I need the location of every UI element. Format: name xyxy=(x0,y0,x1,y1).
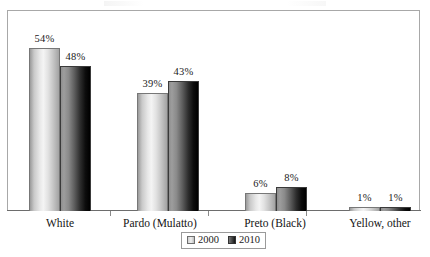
category-label-yellow-other: Yellow, other xyxy=(333,216,427,230)
legend-item-2000[interactable]: 2000 xyxy=(187,234,219,246)
scan-artifact xyxy=(104,1,326,6)
bar-value-label: 43% xyxy=(161,66,207,78)
bar-rect xyxy=(137,93,168,211)
bar-white-2010: 48% xyxy=(60,11,91,211)
bar-rect xyxy=(380,207,411,211)
bar-value-label: 8% xyxy=(269,172,315,184)
bar-group-yellow-other: 1% 1% xyxy=(348,11,412,211)
bar-rect xyxy=(245,193,276,211)
bar-rect xyxy=(29,48,60,211)
legend-swatch-2000-icon xyxy=(187,236,195,244)
bar-group-preto: 6% 8% xyxy=(244,11,308,211)
bar-rect xyxy=(349,207,380,211)
bar-rect xyxy=(168,81,199,211)
chart-legend: 2000 2010 xyxy=(181,232,266,249)
bar-yellow-other-2010: 1% xyxy=(380,11,411,211)
category-label-preto: Preto (Black) xyxy=(228,216,322,230)
axis-tick xyxy=(110,211,111,216)
bar-group-pardo: 39% 43% xyxy=(136,11,200,211)
bar-white-2000: 54% xyxy=(29,11,60,211)
bar-value-label: 48% xyxy=(53,51,99,63)
bar-pardo-2010: 43% xyxy=(168,11,199,211)
bar-group-white: 54% 48% xyxy=(28,11,92,211)
bar-yellow-other-2000: 1% xyxy=(349,11,380,211)
legend-label-2000: 2000 xyxy=(198,234,219,246)
legend-swatch-2010-icon xyxy=(228,236,236,244)
category-label-white: White xyxy=(20,216,100,230)
axis-tick xyxy=(208,211,209,216)
bar-rect xyxy=(60,66,91,211)
grouped-bar-chart: 54% 48% 39% 43% 6% xyxy=(0,0,430,257)
category-label-pardo: Pardo (Mulatto) xyxy=(113,216,207,230)
bar-value-label: 1% xyxy=(373,192,419,204)
bar-rect xyxy=(276,187,307,211)
legend-item-2010[interactable]: 2010 xyxy=(228,234,260,246)
bar-pardo-2000: 39% xyxy=(137,11,168,211)
bar-preto-2010: 8% xyxy=(276,11,307,211)
legend-label-2010: 2010 xyxy=(239,234,260,246)
